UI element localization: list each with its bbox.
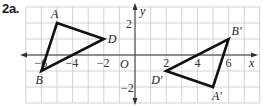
y-axis-label: y [139, 4, 146, 18]
vertex-label: D [107, 32, 117, 46]
x-axis-arrow-left-icon [20, 53, 27, 58]
y-axis-arrow-down-icon [133, 98, 138, 105]
y-axis-arrow-up-icon [133, 3, 138, 10]
x-tick-label: 6 [226, 56, 232, 70]
x-axis-label: x [248, 56, 255, 70]
x-tick-label: −2 [97, 56, 110, 70]
x-tick-label: 4 [194, 56, 200, 70]
y-tick-label: −2 [121, 81, 134, 95]
x-tick-label: 2 [163, 56, 169, 70]
vertex-label: D′ [150, 73, 163, 87]
vertex-label: A′ [211, 89, 222, 103]
vertex-label: A [50, 7, 59, 21]
y-tick-label: 2 [126, 17, 132, 31]
origin-label: O [120, 57, 129, 71]
vertex-label: B [35, 73, 43, 87]
vertex-label: B′ [232, 24, 242, 38]
coordinate-graph: −6−4−22462−2 x y O ADBB′A′D′ [0, 0, 264, 107]
